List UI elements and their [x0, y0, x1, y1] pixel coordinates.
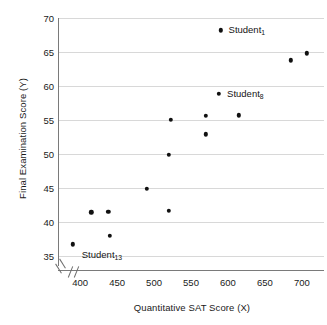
x-axis-title-text: Quantitative SAT Score (X)	[134, 302, 250, 313]
y-tick-label-65: 65	[32, 46, 54, 57]
y-tick-label-50: 50	[32, 148, 54, 159]
x-axis-title: Quantitative SAT Score (X)	[57, 302, 327, 313]
y-axis-ticks: 3540455055606570	[30, 0, 54, 325]
data-point	[218, 28, 222, 32]
data-point	[217, 92, 221, 96]
data-point	[289, 58, 293, 62]
gridline-y-55	[58, 120, 324, 121]
gridline-y-70	[58, 18, 324, 19]
x-tick-label-450: 450	[97, 277, 137, 288]
data-point	[237, 113, 241, 117]
scatter-plot-figure: Final Examination Score (Y) Quantitative…	[0, 0, 327, 325]
data-point	[167, 209, 171, 213]
data-point	[144, 186, 148, 190]
y-axis-title: Final Examination Score (Y)	[17, 19, 28, 259]
data-point	[89, 210, 93, 214]
data-point	[71, 242, 75, 246]
gridline-y-60	[58, 86, 324, 87]
x-tick-label-500: 500	[134, 277, 174, 288]
data-point	[106, 209, 110, 213]
y-tick-label-40: 40	[32, 216, 54, 227]
data-point	[167, 152, 171, 156]
y-tick-label-35: 35	[32, 250, 54, 261]
gridline-y-40	[58, 222, 324, 223]
y-tick-label-60: 60	[32, 80, 54, 91]
data-point-label-student-8: Student8	[227, 88, 264, 101]
y-axis-break-slash-2	[59, 259, 66, 269]
data-point	[108, 234, 112, 238]
gridline-y-45	[58, 188, 324, 189]
data-point	[305, 51, 309, 55]
y-axis-line	[58, 18, 59, 266]
y-axis-title-text: Final Examination Score (Y)	[17, 78, 28, 199]
x-tick-label-700: 700	[282, 277, 322, 288]
data-point	[204, 132, 208, 136]
y-tick-label-45: 45	[32, 182, 54, 193]
x-tick-label-400: 400	[60, 277, 100, 288]
x-tick-label-600: 600	[208, 277, 248, 288]
gridline-y-50	[58, 154, 324, 155]
data-point	[204, 114, 208, 118]
y-tick-label-55: 55	[32, 114, 54, 125]
x-axis-line	[58, 270, 324, 271]
data-point-label-student-1: Student1	[229, 24, 266, 37]
gridline-y-65	[58, 52, 324, 53]
data-point	[169, 118, 173, 122]
data-point-label-student-13: Student13	[82, 249, 122, 262]
x-tick-label-650: 650	[245, 277, 285, 288]
y-tick-label-70: 70	[32, 13, 54, 24]
x-tick-label-550: 550	[171, 277, 211, 288]
